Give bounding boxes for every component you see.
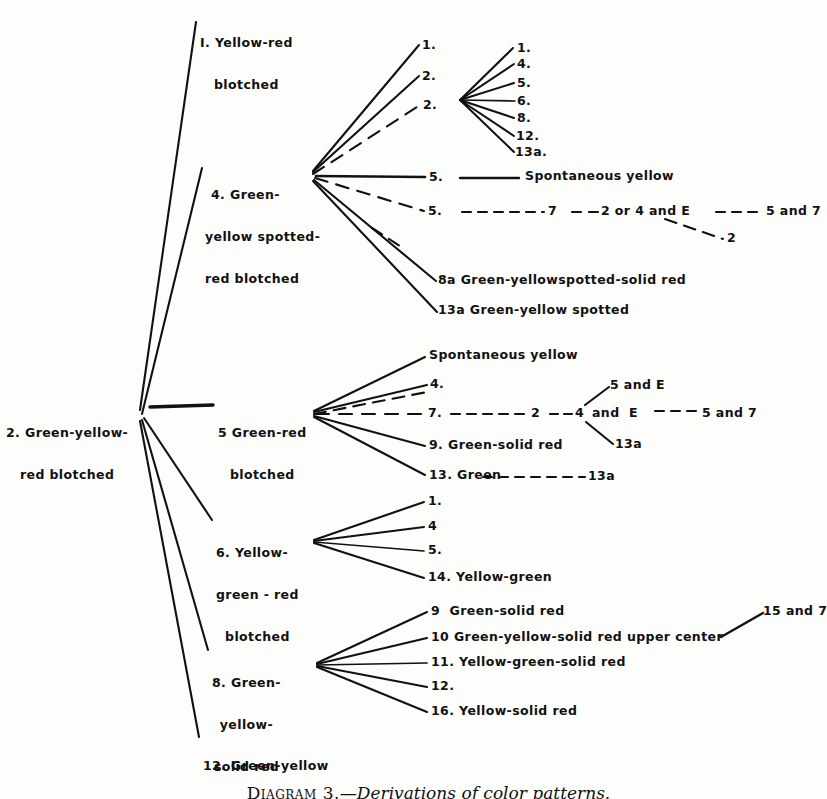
branch4-fan-label-8[interactable]: 8.	[517, 111, 531, 125]
branch4-fan-label-13a[interactable]: 13a.	[515, 145, 547, 159]
node-4-green-yellow-spotted-red-blotched[interactable]: 4. Green- yellow spotted- red blotched	[205, 160, 320, 314]
branch4-fan-label-5[interactable]: 5.	[517, 76, 531, 90]
edge-8-to-12	[317, 666, 427, 687]
edge-fan-13a	[460, 100, 514, 152]
edge-8-to-11	[317, 663, 427, 665]
branch5-chain-step4[interactable]: and E	[592, 406, 638, 420]
node-root-2[interactable]: 2. Green-yellow- red blotched	[6, 398, 128, 510]
branch5-chain-step2[interactable]: 2	[531, 406, 540, 420]
branch5-chain-step3[interactable]: 4	[575, 406, 584, 420]
branch5-chain-down[interactable]: 13a	[615, 437, 642, 451]
edge-4-to-13a	[313, 181, 437, 312]
branch8-annotation-15and7[interactable]: 15 and 7	[763, 604, 827, 618]
branch4-chain-num[interactable]: 5.	[428, 204, 442, 218]
branch4-chain-step2[interactable]: 2 or 4 and E	[601, 204, 690, 218]
node-1-yellow-red-blotched[interactable]: I. Yellow-red blotched	[200, 8, 293, 120]
node-root-line1: 2. Green-yellow-	[6, 426, 128, 440]
branch6-label-14[interactable]: 14. Yellow-green	[428, 570, 552, 584]
branch4-chain-step1[interactable]: 7	[548, 204, 557, 218]
edge-10-to-15and7	[721, 613, 763, 637]
edge-4-to-1	[313, 45, 419, 171]
figure-caption: Diagram 3.—Derivations of color patterns…	[225, 763, 610, 799]
branch5-green-13a[interactable]: 13a	[588, 469, 615, 483]
branch4-chain-step3[interactable]: 5 and 7	[766, 204, 821, 218]
node-root-line2: red blotched	[6, 468, 128, 482]
chain5-down-13a	[586, 422, 613, 444]
edge-fan-12	[460, 100, 514, 136]
branch4-fan-label-4[interactable]: 4.	[517, 57, 531, 71]
edge-8-to-16	[317, 667, 427, 712]
edge-5-to-9	[314, 416, 425, 446]
branch8-label-10[interactable]: 10 Green-yellow-solid red upper center	[431, 630, 723, 644]
branch5-label-9[interactable]: 9. Green-solid red	[429, 438, 563, 452]
branch5-label-spontaneous[interactable]: Spontaneous yellow	[429, 348, 578, 362]
edge-root-to-5	[150, 405, 213, 407]
branch6-label-4[interactable]: 4	[428, 519, 437, 533]
branch4-spontaneous-num[interactable]: 5.	[429, 170, 443, 184]
diagram-canvas: 2. Green-yellow- red blotched I. Yellow-…	[0, 0, 827, 799]
branch5-chain-step5[interactable]: 5 and 7	[702, 406, 757, 420]
branch4-fan-label-6[interactable]: 6.	[517, 94, 531, 108]
edge-root-to-1	[140, 22, 196, 410]
node-6-line1: 6. Yellow-	[216, 546, 299, 560]
figure-caption-label: Diagram 3.	[247, 783, 340, 799]
branch4-primary-label-3[interactable]: 2.	[423, 98, 437, 112]
edge-8-to-10	[317, 638, 427, 664]
branch4-fan-label-1[interactable]: 1.	[517, 41, 531, 55]
edge-5-to-4	[314, 385, 427, 412]
chain4-drop-2	[665, 219, 723, 239]
branch4-fan-label-12[interactable]: 12.	[516, 129, 539, 143]
figure-caption-text: —Derivations of color patterns.	[340, 783, 610, 799]
node-1-line2: blotched	[200, 78, 293, 92]
node-5-green-red-blotched[interactable]: 5 Green-red blotched	[218, 398, 307, 510]
chain5-up-5andE	[585, 387, 609, 405]
branch8-label-9[interactable]: 9 Green-solid red	[431, 604, 565, 618]
edge-5-to-13	[314, 417, 425, 475]
edge-8-to-9	[317, 612, 427, 663]
edge-root-to-8	[142, 420, 208, 650]
edge-root-to-6	[144, 418, 212, 520]
node-6-line3: blotched	[216, 630, 299, 644]
edge-6-to-14	[314, 543, 424, 578]
branch8-label-11[interactable]: 11. Yellow-green-solid red	[431, 655, 626, 669]
branch6-label-1[interactable]: 1.	[428, 494, 442, 508]
branch5-chain-up[interactable]: 5 and E	[610, 378, 665, 392]
edge-4-stub-dashed	[372, 228, 400, 246]
branch4-lower-8a[interactable]: 8a Green-yellowspotted-solid red	[438, 273, 686, 287]
branch5-label-4[interactable]: 4.	[430, 377, 444, 391]
node-4-line2: yellow spotted-	[205, 230, 320, 244]
node-6-line2: green - red	[216, 588, 299, 602]
branch5-label-13[interactable]: 13. Green	[429, 468, 501, 482]
branch4-spontaneous-text[interactable]: Spontaneous yellow	[525, 169, 674, 183]
node-5-line1: 5 Green-red	[218, 426, 307, 440]
branch8-label-16[interactable]: 16. Yellow-solid red	[431, 704, 577, 718]
edge-root-to-4	[142, 168, 202, 414]
edge-4-to-2a	[313, 76, 419, 172]
edge-6-to-5	[314, 542, 424, 551]
node-1-line1: I. Yellow-red	[200, 36, 293, 50]
branch5-label-7[interactable]: 7.	[428, 406, 442, 420]
branch4-lower-13a[interactable]: 13a Green-yellow spotted	[438, 303, 629, 317]
branch4-primary-label-1[interactable]: 1.	[422, 38, 436, 52]
node-4-line3: red blotched	[205, 272, 320, 286]
node-8-line2: yellow-	[212, 718, 281, 732]
edge-5-to-spontaneous	[314, 357, 425, 411]
edge-fan-6	[460, 100, 515, 101]
node-8-line1: 8. Green-	[212, 676, 281, 690]
edge-4-to-2b-dashed	[313, 105, 420, 174]
branch8-label-12[interactable]: 12.	[431, 679, 454, 693]
edge-fan-4	[460, 64, 514, 100]
edge-root-to-12	[140, 421, 199, 737]
node-4-line1: 4. Green-	[205, 188, 320, 202]
branch6-label-5[interactable]: 5.	[428, 543, 442, 557]
edge-4-to-spontaneous	[316, 176, 425, 177]
node-5-line2: blotched	[218, 468, 307, 482]
branch4-chain-drop[interactable]: 2	[727, 231, 736, 245]
branch4-primary-label-2[interactable]: 2.	[422, 69, 436, 83]
